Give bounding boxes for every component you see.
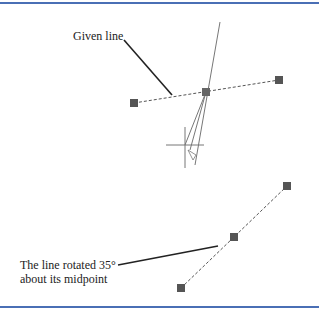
rotated-grip-midpoint-icon (230, 233, 238, 241)
rubber-band-line-b (190, 92, 206, 150)
bottom-border (0, 306, 319, 308)
grip-midpoint-icon (202, 88, 210, 96)
rotated-line-label-2: about its midpoint (20, 273, 107, 286)
given-line-leader (124, 40, 172, 95)
rotated-grip-bottom-icon (177, 284, 185, 292)
grip-right-icon (275, 76, 283, 84)
rotated-line-leader (118, 246, 218, 265)
given-line-label: Given line (73, 30, 123, 43)
grip-left-icon (130, 99, 138, 107)
rotated-line-label-1: The line rotated 35° (20, 259, 116, 272)
rotated-grip-top-icon (283, 182, 291, 190)
